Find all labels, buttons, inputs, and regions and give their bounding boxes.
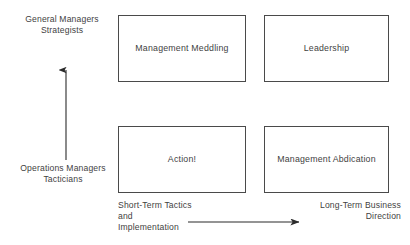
quadrant-box-top-right: Leadership [264, 15, 389, 82]
matrix-diagram: General Managers Strategists Operations … [0, 0, 410, 245]
quadrant-label-bottom-right: Management Abdication [277, 154, 376, 165]
horizontal-axis-low-label: Short-Term Tactics and Implementation [118, 200, 200, 234]
quadrant-label-top-right: Leadership [304, 43, 350, 54]
vertical-axis-high-label: General Managers Strategists [10, 14, 114, 36]
quadrant-box-bottom-left: Action! [118, 126, 246, 193]
quadrant-box-bottom-right: Management Abdication [264, 126, 389, 193]
quadrant-label-bottom-left: Action! [168, 154, 196, 165]
vertical-axis-low-label: Operations Managers Tacticians [8, 163, 118, 185]
horizontal-axis-high-label: Long-Term Business Direction [303, 200, 401, 222]
quadrant-label-top-left: Management Meddling [135, 43, 228, 54]
quadrant-box-top-left: Management Meddling [118, 15, 246, 82]
